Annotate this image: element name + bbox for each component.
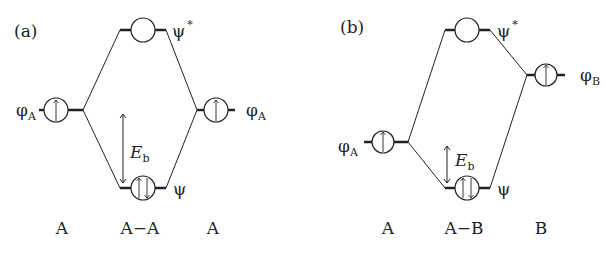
orbital-antibonding-a: ψ* [120, 18, 193, 42]
psi-star-label-b: ψ* [497, 18, 518, 41]
panel-a-label: (a) [14, 21, 37, 41]
binding-energy-a: Eb [123, 114, 149, 183]
panel-b: (b) φA ψ* ψ [338, 17, 600, 238]
phiA-left-label-a: φA [16, 100, 37, 123]
panel-a: (a) φA ψ* ψ [14, 18, 267, 238]
eb-label-a: Eb [129, 142, 149, 165]
mo-diagram: (a) φA ψ* ψ [0, 0, 606, 255]
bottom-label-left-a: A [55, 218, 69, 238]
bottom-label-right-a: A [206, 218, 220, 238]
bottom-label-center-b: A−B [443, 218, 483, 238]
orbital-right-phiB-b: φB [527, 64, 600, 88]
bottom-label-right-b: B [535, 218, 548, 238]
panel-b-label: (b) [340, 17, 364, 37]
orbital-right-phiA-a: φA [197, 98, 267, 123]
bottom-label-left-b: A [381, 218, 395, 238]
psi-star-label-a: ψ* [172, 18, 193, 41]
eb-label-b: Eb [454, 150, 474, 173]
psi-label-b: ψ [497, 179, 510, 199]
orbital-left-phiA-b: φA [338, 131, 408, 159]
orbital-left-phiA-a: φA [16, 98, 83, 123]
bottom-label-center-a: A−A [120, 218, 161, 238]
phiB-label-b: φB [580, 65, 600, 88]
orbital-bonding-b: ψ [445, 176, 510, 200]
phiA-label-b: φA [338, 136, 359, 159]
orbital-antibonding-b: ψ* [445, 18, 518, 42]
phiA-right-label-a: φA [246, 100, 267, 123]
orbital-bonding-a: ψ [120, 176, 186, 200]
psi-label-a: ψ [173, 179, 186, 199]
correlation-lines-a [83, 30, 197, 188]
